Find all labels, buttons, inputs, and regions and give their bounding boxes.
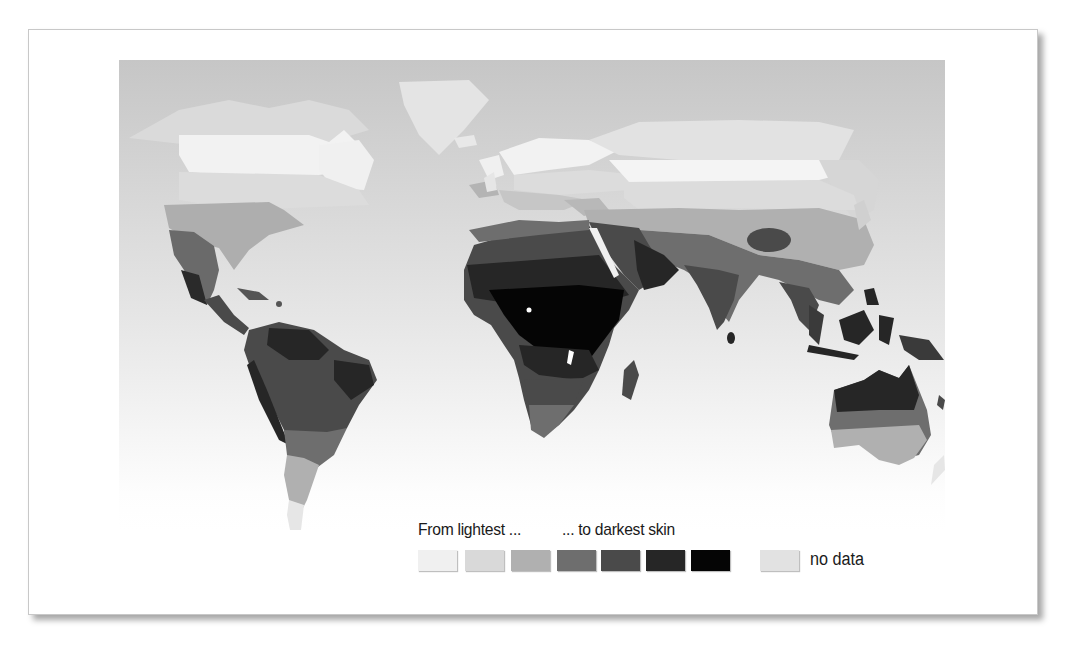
legend-no-data-label: no data [810, 549, 864, 570]
legend-swatch-no-data [760, 550, 799, 571]
legend-from-label: From lightest ... [418, 520, 521, 540]
map-canvas [119, 60, 945, 530]
legend-swatch-5 [601, 550, 640, 571]
legend-swatch-6 [646, 550, 685, 571]
world-skin-color-map [119, 60, 945, 530]
legend-swatch-2 [465, 550, 504, 571]
legend-swatch-4 [557, 550, 596, 571]
legend-swatch-7 [691, 550, 730, 571]
legend-swatch-1 [418, 550, 457, 571]
legend-to-label: ... to darkest skin [562, 520, 675, 540]
legend-swatch-3 [511, 550, 550, 571]
